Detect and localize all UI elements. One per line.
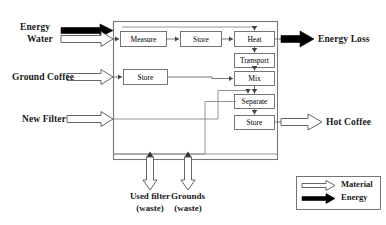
legend-label-material: Material (341, 180, 373, 189)
energy-distribution-line (122, 27, 255, 31)
process-label-mix-wrap: Mix (234, 71, 275, 86)
process-label-heat: Heat (247, 35, 261, 44)
arrow-hot-coffee-out (281, 114, 322, 130)
arrow-new-filter-in (67, 112, 113, 127)
process-label-measure: Measure (131, 35, 157, 44)
process-label-store-coffee: Store (138, 73, 154, 82)
process-label-transport-wrap: Transport (234, 53, 275, 68)
process-label-store-brew-wrap: Store (234, 115, 275, 130)
process-label-measure-wrap: Measure (120, 31, 167, 47)
input-label-new-filter: New Filter (22, 114, 66, 124)
process-label-store-coffee-wrap: Store (123, 69, 168, 85)
arrow-grounds-waste (181, 157, 195, 190)
process-label-separate: Separate (242, 97, 268, 106)
process-label-store-water: Store (193, 35, 209, 44)
arrow-used-filter-waste (143, 157, 157, 190)
output-label-energy-loss: Energy Loss (318, 34, 370, 44)
output-label-hot-coffee: Hot Coffee (326, 117, 371, 127)
input-label-energy: Energy (20, 22, 50, 32)
arrow-energy-loss-out (281, 31, 314, 47)
input-label-ground-coffee: Ground Coffee (12, 72, 74, 82)
process-label-store-brew: Store (247, 118, 263, 127)
diagram-canvas: Energy Water Ground Coffee New Filter En… (0, 0, 386, 225)
waste-label-grounds-line1: Grounds (160, 192, 216, 202)
link-new-filter-to-separate (114, 91, 249, 120)
legend-label-energy: Energy (341, 193, 367, 202)
process-label-transport: Transport (240, 56, 269, 65)
process-label-heat-wrap: Heat (234, 31, 275, 47)
waste-label-grounds-line2: (waste) (160, 204, 216, 214)
process-label-separate-wrap: Separate (234, 94, 275, 109)
process-label-store-water-wrap: Store (180, 31, 222, 47)
link-store-coffee-to-mix (168, 77, 234, 79)
input-label-water: Water (27, 34, 53, 44)
process-label-mix: Mix (248, 74, 261, 83)
